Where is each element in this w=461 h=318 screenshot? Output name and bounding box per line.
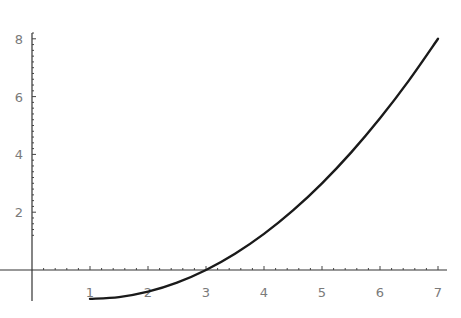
x-tick-label: 6 <box>376 285 384 300</box>
x-tick-label: 5 <box>318 285 326 300</box>
data-series-line <box>90 39 438 299</box>
x-tick-label: 3 <box>202 285 210 300</box>
axis-tick-labels: 12345672468 <box>15 32 442 300</box>
x-tick-label: 7 <box>434 285 442 300</box>
axis-ticks <box>32 33 438 270</box>
y-tick-label: 8 <box>15 32 23 47</box>
x-tick-label: 4 <box>260 285 268 300</box>
y-tick-label: 6 <box>15 90 23 105</box>
y-tick-label: 2 <box>15 205 23 220</box>
y-tick-label: 4 <box>15 147 23 162</box>
chart-plot-area: 12345672468 <box>0 0 461 318</box>
